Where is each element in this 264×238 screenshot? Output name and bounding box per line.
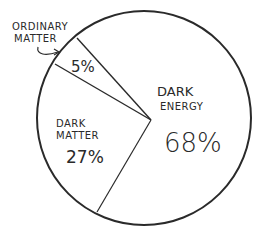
dark-matter-label-line1: DARK bbox=[56, 118, 86, 129]
dark-energy-label-line2: ENERGY bbox=[160, 101, 204, 112]
dark-energy-label-line1: DARK bbox=[157, 84, 194, 99]
ordinary-matter-label-line2: MATTER bbox=[14, 33, 57, 44]
arrow-icon bbox=[38, 47, 58, 54]
pie-chart: ORDINARY MATTER 5% DARK ENERGY 68% DARK … bbox=[0, 0, 264, 238]
dark-energy-percent: 68% bbox=[164, 128, 222, 158]
dark-matter-percent: 27% bbox=[66, 147, 104, 167]
dark-matter-label-line2: MATTER bbox=[56, 130, 99, 141]
ordinary-matter-percent: 5% bbox=[71, 58, 95, 76]
ordinary-matter-label-line1: ORDINARY bbox=[12, 21, 69, 32]
